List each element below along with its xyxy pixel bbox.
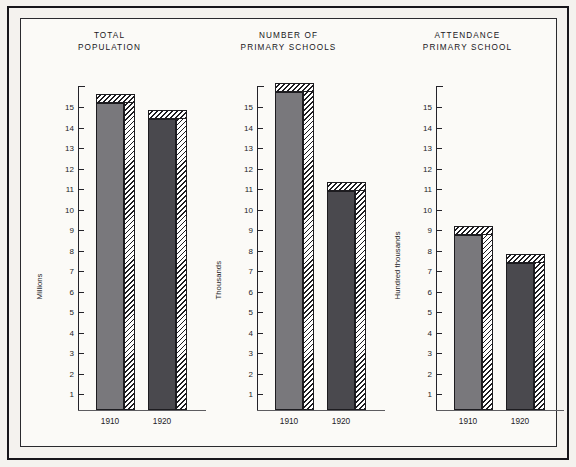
y-tick-14 <box>79 128 84 129</box>
y-tick-label-10: 10 <box>231 205 253 214</box>
bar-side-face <box>124 94 135 410</box>
chart-title: TOTAL POPULATION <box>20 30 199 53</box>
x-axis-baseline <box>257 410 385 411</box>
y-tick-label-6: 6 <box>410 287 432 296</box>
y-tick-7 <box>79 271 84 272</box>
bar-front-face <box>454 235 482 410</box>
bar-top-face <box>506 254 545 263</box>
y-tick-label-10: 10 <box>410 205 432 214</box>
y-tick-label-11: 11 <box>52 185 74 194</box>
bar-top-face <box>327 182 366 191</box>
y-tick-10 <box>79 210 84 211</box>
x-axis-label-1910: 1910 <box>267 416 311 426</box>
y-tick-label-2: 2 <box>231 369 253 378</box>
y-tick-14 <box>437 128 442 129</box>
y-tick-label-4: 4 <box>410 328 432 337</box>
y-tick-14 <box>258 128 263 129</box>
x-axis-label-1920: 1920 <box>140 416 184 426</box>
y-tick-label-15: 15 <box>410 103 432 112</box>
y-tick-11 <box>437 189 442 190</box>
y-tick-label-8: 8 <box>52 246 74 255</box>
y-tick-label-2: 2 <box>410 369 432 378</box>
bar-top-face <box>275 83 314 92</box>
y-tick-4 <box>437 333 442 334</box>
y-tick-label-12: 12 <box>410 164 432 173</box>
bar-front-face <box>96 103 124 410</box>
y-tick-label-13: 13 <box>410 144 432 153</box>
y-tick-5 <box>79 312 84 313</box>
chart-panel-2: NUMBER OF PRIMARY SCHOOLS123456789101112… <box>199 18 378 447</box>
y-tick-label-7: 7 <box>410 267 432 276</box>
y-tick-label-3: 3 <box>231 349 253 358</box>
y-tick-2 <box>437 374 442 375</box>
y-tick-8 <box>258 251 263 252</box>
y-tick-label-14: 14 <box>231 123 253 132</box>
y-tick-label-6: 6 <box>231 287 253 296</box>
x-axis-baseline <box>78 410 206 411</box>
y-tick-15 <box>79 107 84 108</box>
y-tick-2 <box>79 374 84 375</box>
y-tick-6 <box>437 292 442 293</box>
y-axis-title: Millions <box>35 274 44 300</box>
y-tick-label-3: 3 <box>52 349 74 358</box>
y-tick-11 <box>258 189 263 190</box>
y-tick-label-14: 14 <box>410 123 432 132</box>
chart-panel-1: TOTAL POPULATION123456789101112131415Mil… <box>20 18 199 447</box>
y-tick-5 <box>258 312 263 313</box>
y-tick-2 <box>258 374 263 375</box>
y-tick-label-6: 6 <box>52 287 74 296</box>
y-tick-label-14: 14 <box>52 123 74 132</box>
y-tick-1 <box>79 394 84 395</box>
y-tick-7 <box>437 271 442 272</box>
y-tick-9 <box>437 230 442 231</box>
y-tick-label-12: 12 <box>52 164 74 173</box>
y-tick-label-8: 8 <box>410 246 432 255</box>
bar-side-face <box>303 83 314 410</box>
chart-title: ATTENDANCE PRIMARY SCHOOL <box>378 30 557 53</box>
y-tick-4 <box>258 333 263 334</box>
y-tick-3 <box>79 353 84 354</box>
y-tick-6 <box>258 292 263 293</box>
y-tick-7 <box>258 271 263 272</box>
y-tick-label-13: 13 <box>231 144 253 153</box>
y-tick-3 <box>258 353 263 354</box>
bar-top-face <box>148 110 187 119</box>
y-tick-12 <box>79 169 84 170</box>
y-tick-1 <box>258 394 263 395</box>
y-tick-8 <box>437 251 442 252</box>
charts-container: TOTAL POPULATION123456789101112131415Mil… <box>20 18 557 447</box>
y-axis-top-cap <box>78 86 85 87</box>
y-tick-15 <box>437 107 442 108</box>
y-tick-1 <box>437 394 442 395</box>
y-tick-12 <box>258 169 263 170</box>
chart-title: NUMBER OF PRIMARY SCHOOLS <box>199 30 378 53</box>
y-tick-13 <box>437 148 442 149</box>
y-tick-11 <box>79 189 84 190</box>
bar-side-face <box>355 182 366 410</box>
y-tick-13 <box>258 148 263 149</box>
y-tick-label-13: 13 <box>52 144 74 153</box>
y-tick-label-1: 1 <box>52 390 74 399</box>
y-tick-label-12: 12 <box>231 164 253 173</box>
y-tick-9 <box>258 230 263 231</box>
y-tick-5 <box>437 312 442 313</box>
y-axis-line <box>257 86 258 410</box>
y-axis-top-cap <box>436 86 443 87</box>
y-tick-label-9: 9 <box>52 226 74 235</box>
y-tick-label-8: 8 <box>231 246 253 255</box>
y-tick-12 <box>437 169 442 170</box>
x-axis-baseline <box>436 410 564 411</box>
y-tick-3 <box>437 353 442 354</box>
bar-front-face <box>275 92 303 410</box>
y-tick-label-5: 5 <box>231 308 253 317</box>
x-axis-label-1910: 1910 <box>446 416 490 426</box>
y-tick-label-3: 3 <box>410 349 432 358</box>
x-axis-label-1910: 1910 <box>88 416 132 426</box>
y-tick-label-9: 9 <box>231 226 253 235</box>
bar-top-face <box>454 226 493 235</box>
y-tick-label-10: 10 <box>52 205 74 214</box>
bar-front-face <box>327 191 355 410</box>
y-axis-title: Thousands <box>214 261 223 300</box>
y-tick-label-2: 2 <box>52 369 74 378</box>
y-tick-label-4: 4 <box>231 328 253 337</box>
